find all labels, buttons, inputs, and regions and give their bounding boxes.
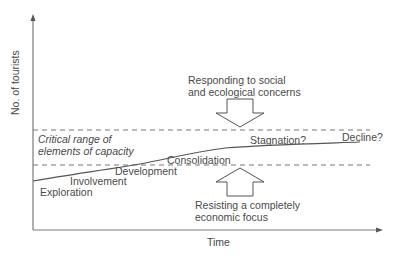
downward-pressure-line1: Responding to social <box>188 74 285 86</box>
down-arrow-icon <box>216 99 264 127</box>
tourism-lifecycle-diagram: No. of tourists Time Critical range of e… <box>0 0 414 255</box>
x-axis <box>33 228 383 233</box>
x-axis-arrowhead-icon <box>376 228 383 233</box>
y-axis-label: No. of tourists <box>9 50 21 115</box>
upward-pressure-line1: Resisting a completely <box>195 199 300 211</box>
up-arrow-icon <box>216 168 264 196</box>
stage-development: Development <box>115 165 177 177</box>
stage-stagnation: Stagnation? <box>250 134 306 146</box>
upward-pressure-line2: economic focus <box>195 211 268 223</box>
downward-pressure-line2: and ecological concerns <box>188 86 301 98</box>
y-axis <box>31 14 36 230</box>
capacity-label-line1: Critical range of <box>38 133 112 145</box>
y-axis-arrowhead-icon <box>31 14 36 21</box>
x-axis-label: Time <box>207 236 230 248</box>
stage-consolidation: Consolidation <box>167 154 231 166</box>
stage-decline: Decline? <box>342 131 383 143</box>
stage-exploration: Exploration <box>40 186 93 198</box>
capacity-label-line2: elements of capacity <box>38 145 134 157</box>
